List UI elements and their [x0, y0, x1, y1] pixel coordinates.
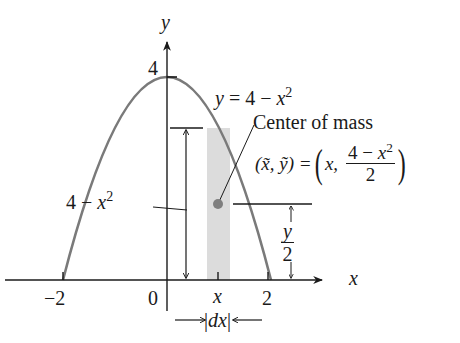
x-tick-2: 2: [262, 288, 272, 308]
y-tick-4: 4: [148, 58, 158, 78]
height-exp: 2: [106, 189, 113, 204]
center-of-mass-label: Center of mass: [253, 112, 373, 132]
curve-eq-var: x: [276, 87, 285, 109]
half-height-fraction: y 2: [281, 221, 294, 264]
centroid-y-fraction: 4 − x2 2: [346, 143, 395, 184]
curve-eq-lhs: y: [215, 87, 224, 109]
x-axis-label: x: [349, 268, 358, 288]
height-prefix: 4 −: [66, 191, 97, 213]
x-tick-0: 0: [148, 288, 158, 308]
height-leader: [153, 207, 187, 210]
centroid-x-component: x,: [325, 154, 338, 173]
center-of-mass-diagram: y x 4 −2 0 x 2 y = 4 − x2 Center of mass…: [0, 0, 460, 343]
curve-equation-label: y = 4 − x2: [215, 88, 292, 108]
strip-width-label: |dx|: [204, 310, 231, 330]
right-paren: ): [398, 144, 406, 184]
x-tick-neg2: −2: [44, 288, 65, 308]
x-tick-x: x: [213, 286, 222, 306]
left-paren: (: [314, 144, 322, 184]
half-height-label: y 2: [281, 221, 294, 264]
numerator-exp: 2: [386, 140, 393, 155]
centroid-formula: (x̃, ỹ) = ( x, 4 − x2 2 ): [255, 143, 408, 184]
curve-eq-exp: 2: [285, 85, 292, 100]
half-height-numerator: y: [281, 221, 294, 243]
curve-eq-middle: = 4 −: [224, 87, 277, 109]
numerator-prefix: 4 −: [348, 142, 378, 163]
strip-height-label: 4 − x2: [66, 192, 113, 212]
centroid-lhs: (x̃, ỹ) =: [255, 154, 312, 173]
half-height-denominator: 2: [282, 243, 292, 264]
dx-var: dx: [208, 309, 227, 331]
fraction-denominator: 2: [366, 164, 376, 184]
centroid-dot: [213, 199, 223, 209]
dx-bar-right: |: [227, 309, 231, 331]
y-axis-label: y: [161, 12, 170, 32]
height-var: x: [97, 191, 106, 213]
fraction-numerator: 4 − x2: [346, 143, 395, 164]
numerator-var: x: [378, 142, 386, 163]
